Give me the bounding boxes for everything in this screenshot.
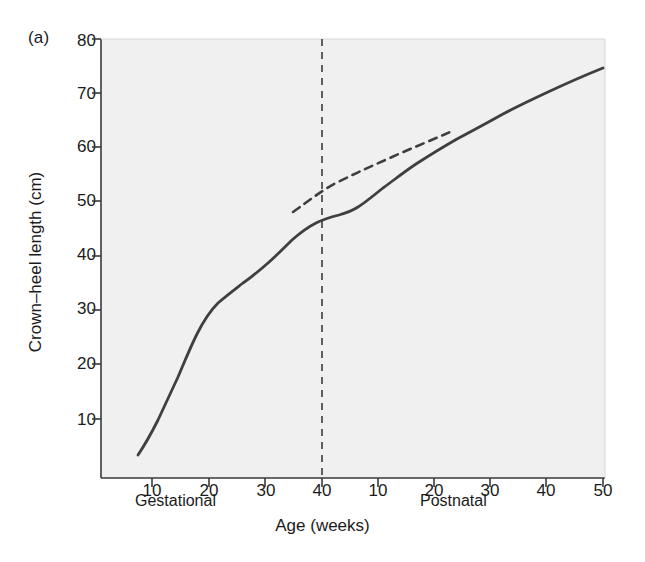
plot-background [101,39,605,478]
x-tick-marks [152,478,603,487]
y-tick-marks [92,39,101,419]
figure-panel-a: (a) Crown–heel length (cm) Age (weeks) G… [0,0,645,562]
plot-canvas [0,0,645,562]
